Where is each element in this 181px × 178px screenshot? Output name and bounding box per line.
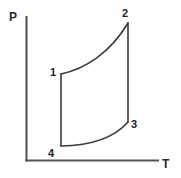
cycle-plot-canvas: P T 1 2 3 4 (0, 0, 181, 178)
state-label-1: 1 (50, 66, 56, 78)
temperature-axis-label: T (162, 157, 170, 171)
state-label-3: 3 (131, 118, 137, 130)
state-label-4: 4 (48, 147, 55, 159)
pt-cycle-diagram: P T 1 2 3 4 (0, 0, 181, 178)
process-curve-3-4 (61, 122, 128, 146)
state-label-2: 2 (122, 7, 128, 19)
process-curve-1-2 (61, 23, 128, 74)
pressure-axis-label: P (9, 10, 17, 24)
